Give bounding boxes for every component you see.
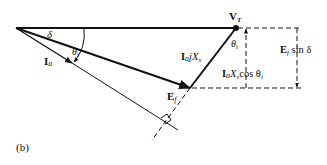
panel-label: (b) [16,141,29,154]
ia-extension-line [72,63,178,130]
ia-label: Ia [44,55,52,68]
delta-label: δ [47,28,53,40]
iaxscos-label: IaXscos θi [222,68,263,81]
iajxs-label: IajXs [181,51,201,64]
ef-phasor-line [16,28,190,88]
vt-label: VT [229,10,242,24]
phasor-diagram: VT δ θi θi Ia IajXs Ef Ef sin δ IaXscos … [0,0,327,165]
ef-label: Ef [167,90,178,104]
efsind-label: Ef sin δ [280,44,311,57]
theta-i-origin-label: θi [72,46,79,59]
theta-i-vt-label: θi [231,38,238,51]
